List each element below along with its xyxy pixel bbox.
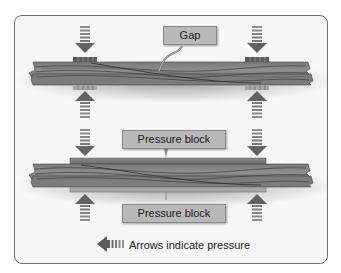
legend-arrow-icon [97,236,124,252]
legend-text: Arrows indicate pressure [129,238,250,252]
diagram-panel: Gap Pressure block Pressure block Arrows… [14,15,328,264]
gap-callout-label: Gap [163,26,217,45]
pressure-block-bottom-label: Pressure block [122,204,226,223]
pressure-arrow-icon [247,129,267,156]
pressure-arrow-icon [75,129,95,156]
pressure-arrow-icon [247,26,267,53]
pressure-arrow-icon [75,26,95,53]
pressure-block-top-label: Pressure block [122,130,226,149]
